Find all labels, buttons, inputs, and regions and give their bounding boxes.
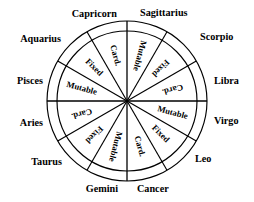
sign-label-virgo: Virgo — [214, 115, 239, 126]
sign-label-aries: Aries — [20, 117, 43, 128]
zodiac-wheel-diagram: MutableFixedCard.MutableFixedCard.Mutabl… — [0, 0, 254, 202]
sign-label-pisces: Pisces — [17, 75, 43, 86]
modality-label: Fixed — [84, 56, 106, 78]
sign-label-leo: Leo — [195, 153, 211, 164]
sign-label-libra: Libra — [214, 75, 239, 86]
sign-label-capricorn: Capricorn — [72, 8, 118, 19]
modality-label: Fixed — [84, 124, 106, 146]
sign-label-taurus: Taurus — [31, 156, 62, 167]
modality-label: Fixed — [150, 58, 172, 80]
modality-label: Card. — [70, 107, 93, 122]
sign-label-aquarius: Aquarius — [20, 33, 61, 44]
modality-label: Card. — [161, 82, 184, 97]
modality-label: Mutable — [156, 103, 189, 121]
modality-label: Card. — [108, 44, 123, 67]
sign-label-cancer: Cancer — [137, 183, 169, 194]
modality-label: Fixed — [150, 123, 172, 145]
sign-label-gemini: Gemini — [86, 183, 118, 194]
modality-label: Card. — [133, 135, 148, 158]
sign-label-scorpio: Scorpio — [200, 31, 233, 42]
modality-label: Mutable — [107, 130, 125, 163]
sign-label-sagittarius: Sagittarius — [140, 7, 188, 18]
zodiac-wheel-figure: MutableFixedCard.MutableFixedCard.Mutabl… — [0, 0, 254, 202]
sector-spokes — [47, 21, 207, 181]
